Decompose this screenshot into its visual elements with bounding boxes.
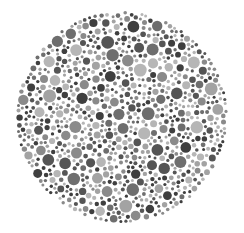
plate-dot — [159, 195, 162, 198]
plate-dot — [78, 61, 81, 64]
plate-dot — [133, 132, 137, 136]
plate-dot — [78, 38, 81, 41]
plate-dot — [183, 191, 186, 194]
plate-dot — [159, 122, 162, 125]
plate-dot — [111, 88, 114, 91]
plate-dot — [212, 104, 223, 115]
plate-dot — [192, 152, 197, 157]
plate-dot — [55, 191, 58, 194]
plate-dot — [161, 108, 164, 111]
plate-dot — [191, 160, 194, 163]
plate-dot — [70, 113, 73, 116]
plate-dot — [25, 111, 28, 114]
plate-dot — [70, 85, 73, 88]
plate-dots — [16, 11, 227, 223]
plate-dot — [55, 119, 59, 123]
plate-dot — [89, 184, 92, 187]
plate-dot — [114, 152, 117, 155]
plate-dot — [154, 157, 157, 160]
plate-dot — [121, 213, 124, 216]
plate-dot — [201, 161, 207, 167]
plate-dot — [98, 184, 101, 187]
plate-dot — [207, 106, 210, 109]
plate-dot — [142, 92, 146, 96]
plate-dot — [143, 156, 146, 159]
plate-dot — [113, 82, 117, 86]
plate-dot — [40, 141, 43, 144]
plate-dot — [202, 59, 207, 64]
plate-dot — [183, 186, 187, 190]
plate-dot — [115, 165, 118, 168]
plate-dot — [219, 97, 222, 100]
plate-dot — [130, 13, 134, 17]
plate-dot — [193, 93, 199, 99]
plate-dot — [53, 170, 60, 177]
plate-dot — [69, 118, 72, 121]
plate-dot — [162, 202, 167, 207]
plate-dot — [66, 29, 76, 39]
plate-dot — [87, 91, 93, 97]
plate-dot — [181, 179, 184, 182]
plate-dot — [191, 121, 203, 133]
plate-dot — [38, 90, 42, 94]
plate-dot — [95, 202, 99, 206]
plate-dot — [95, 28, 101, 34]
plate-dot — [59, 158, 71, 170]
plate-dot — [221, 114, 226, 119]
plate-dot — [164, 104, 168, 108]
plate-dot — [195, 148, 199, 152]
plate-dot — [18, 95, 28, 105]
plate-dot — [119, 200, 132, 213]
plate-dot — [184, 36, 190, 42]
plate-dot — [196, 81, 204, 89]
plate-dot — [113, 128, 116, 131]
plate-dot — [69, 193, 73, 197]
plate-dot — [142, 103, 145, 106]
plate-dot — [84, 136, 87, 139]
plate-dot — [106, 61, 110, 65]
plate-dot — [86, 181, 89, 184]
plate-dot — [92, 45, 95, 48]
plate-dot — [180, 30, 183, 33]
plate-dot — [31, 65, 37, 71]
plate-dot — [68, 97, 71, 100]
plate-dot — [59, 197, 62, 200]
plate-dot — [35, 93, 39, 97]
plate-dot — [204, 125, 207, 128]
plate-dot — [79, 208, 82, 211]
plate-dot — [92, 75, 99, 82]
plate-dot — [100, 197, 103, 200]
plate-dot — [158, 58, 161, 61]
plate-dot — [24, 151, 32, 159]
plate-dot — [121, 36, 127, 42]
plate-dot — [210, 164, 214, 168]
plate-dot — [89, 202, 92, 205]
plate-dot — [152, 89, 158, 95]
plate-dot — [173, 48, 176, 51]
plate-dot — [128, 36, 131, 39]
plate-dot — [186, 170, 190, 174]
plate-dot — [51, 132, 54, 135]
plate-dot — [100, 93, 104, 97]
plate-dot — [56, 87, 62, 93]
plate-dot — [101, 200, 106, 205]
plate-dot — [214, 142, 217, 145]
plate-dot — [128, 67, 133, 72]
plate-dot — [139, 17, 142, 20]
plate-dot — [66, 104, 70, 108]
plate-dot — [169, 175, 174, 180]
plate-dot — [23, 139, 26, 142]
plate-dot — [189, 184, 192, 187]
plate-dot — [169, 109, 172, 112]
plate-dot — [96, 207, 105, 216]
plate-dot — [158, 209, 161, 212]
plate-dot — [21, 83, 25, 87]
plate-dot — [164, 21, 168, 25]
plate-dot — [150, 72, 156, 78]
plate-dot — [173, 115, 176, 118]
plate-dot — [144, 40, 148, 44]
plate-dot — [83, 206, 89, 212]
plate-dot — [102, 52, 106, 56]
plate-dot — [73, 135, 78, 140]
plate-dot — [115, 91, 118, 94]
